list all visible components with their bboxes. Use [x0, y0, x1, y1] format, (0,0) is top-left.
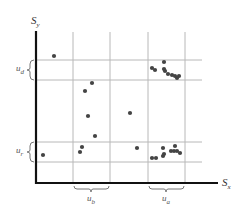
data-point [41, 153, 45, 157]
brace-ub [74, 186, 109, 192]
data-point [162, 60, 166, 64]
sensor-scatter-diagram [0, 0, 245, 216]
data-point [173, 144, 177, 148]
brace-ua [149, 186, 184, 192]
band-label-ud: ud [16, 64, 24, 76]
data-point [154, 156, 158, 160]
band-label-ud-sub: d [21, 68, 25, 76]
data-point [128, 111, 132, 115]
grid [36, 32, 202, 183]
band-label-ua: ua [162, 194, 170, 206]
data-points [41, 54, 182, 160]
brace-ur [27, 142, 34, 162]
data-point [178, 151, 182, 155]
band-label-ua-sub: a [167, 198, 171, 206]
data-point [90, 81, 94, 85]
band-label-ur-sub: r [21, 150, 24, 158]
band-label-ub: ub [87, 194, 95, 206]
data-point [78, 150, 82, 154]
brace-ud [27, 60, 34, 80]
band-label-ur: ur [16, 146, 23, 158]
band-label-ub-sub: b [92, 198, 96, 206]
data-point [161, 146, 165, 150]
data-point [162, 152, 166, 156]
data-point [135, 146, 139, 150]
data-point [83, 89, 87, 93]
y-axis-label: Sy [31, 15, 40, 29]
data-point [150, 156, 154, 160]
x-axis-label-sub: x [228, 183, 231, 191]
data-point [52, 54, 56, 58]
x-axis-label: Sx [222, 177, 231, 191]
data-point [93, 134, 97, 138]
y-axis-label-sub: y [37, 21, 40, 29]
data-point [163, 69, 167, 73]
data-point [153, 68, 157, 72]
data-point [166, 72, 170, 76]
axes [35, 31, 218, 184]
data-point [80, 145, 84, 149]
data-point [86, 114, 90, 118]
data-point [177, 74, 181, 78]
